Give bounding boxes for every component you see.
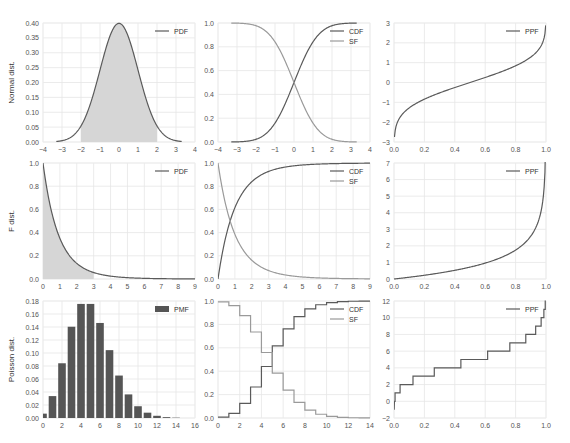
y-tick-label: 0	[386, 398, 390, 405]
x-tick-label: 10	[323, 422, 331, 429]
y-tick-label: 2	[386, 39, 390, 46]
pmf-bar	[134, 406, 142, 418]
legend-label: PPF	[525, 28, 539, 35]
legend-label: CDF	[349, 168, 363, 175]
y-tick-label: −2	[382, 415, 390, 422]
y-tick-label: 0.08	[25, 363, 39, 370]
x-tick-label: 4	[109, 283, 113, 290]
x-tick-label: 6	[142, 283, 146, 290]
legend-label: SF	[349, 316, 358, 323]
y-tick-label: 0.2	[204, 115, 214, 122]
x-tick-label: 2	[330, 146, 334, 153]
legend-label: CDF	[349, 28, 363, 35]
normal-ppf-axes: 0.00.20.40.60.81.0−3−2−10123PPF	[382, 20, 551, 154]
x-tick-label: 12	[153, 422, 161, 429]
cdf-line	[218, 163, 370, 279]
x-tick-label: −2	[77, 146, 85, 153]
x-tick-label: 2	[60, 422, 64, 429]
x-tick-label: 1.0	[541, 283, 551, 290]
x-tick-label: 1	[311, 146, 315, 153]
x-tick-label: −3	[58, 146, 66, 153]
shaded-area	[43, 163, 94, 279]
y-tick-label: 0.2	[204, 391, 214, 398]
x-tick-label: 5	[125, 283, 129, 290]
f-ppf-axes: 0.00.20.40.60.81.001234567PPF	[386, 136, 551, 290]
y-tick-label: 1.0	[204, 20, 214, 27]
ppf-line	[394, 25, 545, 137]
sf-line	[218, 163, 370, 279]
x-tick-label: 0.6	[480, 283, 490, 290]
ppf-line	[394, 301, 546, 410]
y-tick-label: 0.25	[25, 64, 39, 71]
x-tick-label: 6	[98, 422, 102, 429]
poisson-ppf-axes: 0.00.20.40.60.81.0−2024681012PPF	[382, 298, 551, 430]
x-tick-label: 0.4	[450, 283, 460, 290]
pmf-bar	[96, 323, 104, 418]
y-tick-label: 0.0	[204, 139, 214, 146]
x-tick-label: 0.6	[480, 422, 490, 429]
y-tick-label: 0.04	[25, 389, 39, 396]
legend-label: PPF	[525, 168, 539, 175]
x-tick-label: −1	[271, 146, 279, 153]
y-tick-label: 3	[386, 226, 390, 233]
x-tick-label: 0.8	[511, 283, 521, 290]
y-tick-label: 6	[386, 176, 390, 183]
x-tick-label: 2	[250, 283, 254, 290]
legend-label: PPF	[525, 306, 539, 313]
x-tick-label: 8	[117, 422, 121, 429]
x-tick-label: 0	[41, 283, 45, 290]
pmf-bar	[39, 414, 47, 418]
y-tick-label: 1.0	[204, 298, 214, 305]
normal-pdf-axes: −4−3−2−1012340.000.050.100.150.200.250.3…	[7, 20, 197, 154]
x-tick-label: 0	[41, 422, 45, 429]
x-tick-label: 0.0	[389, 283, 399, 290]
pmf-bar	[125, 394, 133, 418]
pmf-bar	[144, 413, 152, 418]
y-tick-label: 0.0	[204, 276, 214, 283]
x-tick-label: 7	[159, 283, 163, 290]
y-tick-label: 0.18	[25, 298, 39, 305]
y-tick-label: 3	[386, 20, 390, 27]
y-tick-label: 0.16	[25, 311, 39, 318]
y-tick-label: 0.8	[204, 43, 214, 50]
y-tick-label: 0.02	[25, 402, 39, 409]
pmf-bar	[68, 327, 76, 418]
x-tick-label: −2	[252, 146, 260, 153]
y-tick-label: 0.30	[25, 49, 39, 56]
x-tick-label: 4	[284, 283, 288, 290]
legend-label: PMF	[174, 306, 189, 313]
x-tick-label: 8	[303, 422, 307, 429]
y-tick-label: 0.8	[204, 321, 214, 328]
y-tick-label: 0.0	[204, 415, 214, 422]
y-tick-label: 0.6	[204, 206, 214, 213]
y-tick-label: 0.06	[25, 376, 39, 383]
y-tick-label: 0.6	[29, 206, 39, 213]
pmf-bar	[87, 304, 95, 418]
x-tick-label: 4	[368, 146, 372, 153]
row-label: Normal dist.	[7, 61, 16, 104]
x-tick-label: 0.4	[450, 146, 460, 153]
x-tick-label: 3	[174, 146, 178, 153]
x-tick-label: 2	[155, 146, 159, 153]
pmf-bar	[49, 396, 57, 418]
x-tick-label: 0	[292, 146, 296, 153]
x-tick-label: −1	[96, 146, 104, 153]
normal-cdf-sf-axes: −4−3−2−1012340.00.20.40.60.81.0CDFSF	[204, 20, 372, 154]
legend-label: SF	[349, 178, 358, 185]
x-tick-label: 1.0	[541, 146, 551, 153]
x-tick-label: 16	[191, 422, 199, 429]
x-tick-label: −3	[233, 146, 241, 153]
x-tick-label: 0.0	[389, 422, 399, 429]
x-tick-label: 10	[134, 422, 142, 429]
y-tick-label: −1	[382, 99, 390, 106]
x-tick-label: 9	[368, 283, 372, 290]
x-tick-label: 2	[238, 422, 242, 429]
pmf-bar	[153, 416, 161, 418]
x-tick-label: 1	[58, 283, 62, 290]
x-tick-label: 8	[176, 283, 180, 290]
x-tick-label: 0.2	[420, 146, 430, 153]
y-tick-label: 0.00	[25, 139, 39, 146]
pmf-bar	[58, 363, 66, 418]
y-tick-label: 0.10	[25, 109, 39, 116]
f-pdf-axes: 01234567890.00.20.40.60.81.0F dist.PDF	[7, 160, 197, 291]
